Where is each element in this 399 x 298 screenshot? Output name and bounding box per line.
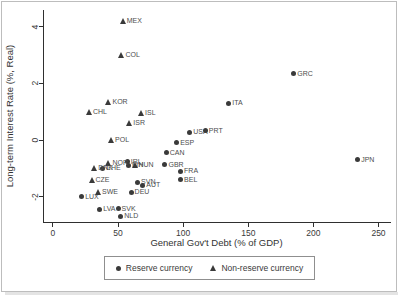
point-ISR [126,120,132,126]
point-LUX [79,194,84,199]
point-FRA [178,169,183,174]
legend-label-non-reserve: Non-reserve currency [221,263,303,273]
point-MEX [120,18,126,24]
point-DNK [91,165,97,171]
point-label-PRT: PRT [209,127,223,135]
point-label-NLD: NLD [124,212,138,220]
point-label-CZE: CZE [96,176,110,184]
point-GBR [162,162,167,167]
point-label-HUN: HUN [139,161,154,169]
point-HUN [132,162,138,168]
point-ITA [226,101,231,106]
plot-area: 050100150200250-2024USAPRTGRCITAESPCANGB… [43,10,391,223]
scatter-chart-figure: Long-term Interest Rate (%, Real) 050100… [0,0,399,298]
point-ISL [138,110,144,116]
point-NLD [118,214,123,219]
point-DEU [129,190,134,195]
point-label-ISL: ISL [145,109,156,117]
x-tick [52,223,53,227]
y-tick-label: 4 [30,16,40,38]
point-label-ISR: ISR [133,119,145,127]
point-CAN [164,150,169,155]
point-AUT [140,183,145,188]
y-tick-label: -2 [30,186,40,208]
legend-item-non-reserve: Non-reserve currency [210,263,303,273]
x-axis-title: General Gov't Debt (% of GDP) [43,237,390,248]
figure-shadow [5,292,398,295]
point-label-LVA: LVA [103,205,115,213]
point-label-CHL: CHL [93,108,107,116]
point-POL [108,137,114,143]
point-GRC [291,71,296,76]
point-label-JPN: JPN [361,156,374,164]
legend-box: Reserve currency Non-reserve currency [104,256,315,280]
y-axis-title: Long-term Interest Rate (%, Real) [4,9,16,223]
x-tick [313,223,314,227]
x-tick [378,223,379,227]
point-USA [187,130,192,135]
legend-item-reserve: Reserve currency [116,263,193,273]
point-label-ESP: ESP [180,139,194,147]
point-label-GRC: GRC [297,70,313,78]
legend-label-reserve: Reserve currency [126,263,193,273]
x-tick [183,223,184,227]
point-CHL [86,109,92,115]
point-label-NOR: NOR [112,159,128,167]
point-label-CAN: CAN [170,149,185,157]
y-tick-label: 0 [30,129,40,151]
point-label-GBR: GBR [168,161,183,169]
point-label-MEX: MEX [127,17,142,25]
point-CZE [89,177,95,183]
point-label-POL: POL [115,136,129,144]
x-tick [248,223,249,227]
point-JPN [355,157,360,162]
y-tick-label: 2 [30,72,40,94]
point-KOR [105,99,111,105]
non-reserve-triangle-icon [210,265,216,271]
point-label-SWE: SWE [102,188,118,196]
x-tick [118,223,119,227]
point-label-BEL: BEL [184,176,197,184]
point-ESP [174,140,179,145]
point-label-ITA: ITA [232,99,242,107]
reserve-circle-icon [116,266,121,271]
point-label-DNK: DNK [98,164,113,172]
point-COL [118,52,124,58]
point-label-KOR: KOR [112,98,127,106]
point-BEL [178,177,183,182]
point-SWE [95,189,101,195]
point-label-COL: COL [125,51,139,59]
point-label-DEU: DEU [135,188,150,196]
point-SVK [116,206,121,211]
point-label-FRA: FRA [184,167,198,175]
point-LVA [97,207,102,212]
